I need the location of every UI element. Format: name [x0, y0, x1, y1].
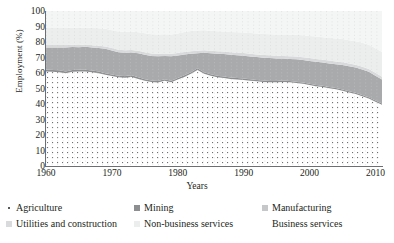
utilities-swatch-icon	[6, 221, 12, 227]
x-tick-label: 1980	[168, 168, 187, 179]
legend-label: Manufacturing	[272, 202, 331, 214]
legend-item-mining[interactable]: Mining	[134, 202, 173, 214]
y-tick-label: 20	[36, 131, 46, 140]
y-tick-label: 50	[36, 84, 46, 93]
y-tick-label: 90	[36, 22, 46, 31]
manufacturing-swatch-icon	[262, 205, 268, 211]
x-axis-title: Years	[0, 181, 394, 191]
legend-item-manufacturing[interactable]: Manufacturing	[262, 202, 331, 214]
legend-label: Mining	[144, 202, 173, 214]
stacked-area-chart	[46, 11, 382, 166]
legend-item-utilities-and-construction[interactable]: Utilities and construction	[6, 218, 117, 230]
y-tick-label: 60	[36, 69, 46, 78]
legend-label: Agriculture	[16, 202, 62, 214]
legend-label: Business services	[272, 218, 342, 230]
y-axis-line	[45, 11, 46, 167]
y-tick-label: 30	[36, 115, 46, 124]
x-tick-label: 1970	[102, 168, 121, 179]
nonbusiness-swatch-icon	[134, 221, 140, 227]
y-tick-label: 70	[36, 53, 46, 62]
chart-figure: Employment (%) 1009080706050403020100 19…	[0, 0, 394, 243]
y-tick-label: 100	[31, 7, 45, 16]
vertical-gridlines	[46, 11, 382, 166]
legend-item-business-services[interactable]: Business services	[262, 218, 342, 230]
legend-label: Utilities and construction	[16, 218, 117, 230]
x-tick-label: 1960	[37, 168, 56, 179]
mining-swatch-icon	[134, 205, 140, 211]
x-tick-label: 1990	[234, 168, 253, 179]
legend-label: Non-business services	[144, 218, 233, 230]
legend-item-agriculture[interactable]: Agriculture	[6, 202, 62, 214]
business-swatch-icon	[262, 221, 268, 227]
legend-row: Agriculture Mining Manufacturing	[6, 202, 390, 218]
y-tick-label: 10	[36, 146, 46, 155]
x-axis-line	[45, 166, 383, 167]
agriculture-swatch-icon	[6, 205, 12, 211]
y-tick-label: 40	[36, 100, 46, 109]
legend-row: Utilities and construction Non-business …	[6, 218, 390, 234]
x-tick-label: 2010	[366, 168, 385, 179]
chart-legend: Agriculture Mining Manufacturing Utiliti…	[6, 202, 390, 238]
legend-item-non-business-services[interactable]: Non-business services	[134, 218, 233, 230]
y-tick-label: 80	[36, 38, 46, 47]
plot-area	[46, 11, 382, 166]
x-axis-tick-labels: 196019701980199020002010	[0, 168, 394, 182]
x-tick-label: 2000	[300, 168, 319, 179]
